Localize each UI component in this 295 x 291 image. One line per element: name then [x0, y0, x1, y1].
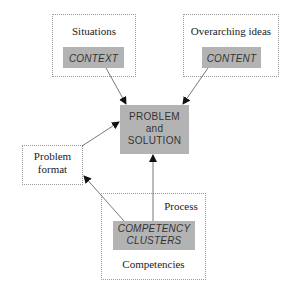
arrow-content-to-center [183, 68, 208, 104]
arrow-clusters-to-format [84, 176, 124, 221]
arrows-layer [0, 0, 295, 291]
arrow-format-to-center [82, 122, 119, 146]
arrow-context-to-center [106, 68, 126, 104]
